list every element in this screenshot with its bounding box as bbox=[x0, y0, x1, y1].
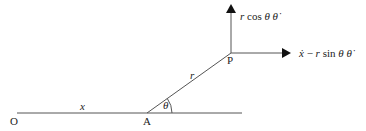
arrowhead-up-icon bbox=[226, 4, 236, 13]
label-r: r bbox=[190, 69, 195, 81]
label-p: P bbox=[227, 54, 233, 66]
arrowhead-right-icon bbox=[282, 48, 291, 58]
label-theta: θ bbox=[163, 99, 169, 111]
label-a: A bbox=[143, 115, 151, 127]
rod-ap bbox=[147, 53, 231, 113]
kinematics-diagram: O A P x r θ r cos θ θ̇ ẋ − r sin θ θ̇ bbox=[0, 0, 366, 131]
label-o: O bbox=[10, 115, 18, 127]
vertical-velocity-label: r cos θ θ̇ bbox=[240, 10, 282, 22]
horizontal-velocity-label: ẋ − r sin θ θ̇ bbox=[298, 47, 356, 59]
label-x: x bbox=[79, 100, 85, 112]
